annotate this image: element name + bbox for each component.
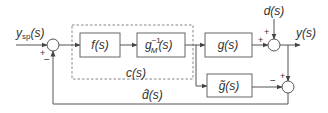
summing-junction-1 bbox=[47, 39, 59, 51]
feedback-line bbox=[53, 51, 288, 104]
summing-junction-2 bbox=[268, 39, 280, 51]
output-label: y(s) bbox=[295, 26, 316, 40]
sum2-left-plus-sign: + bbox=[258, 35, 263, 45]
setpoint-label: ysp(s) bbox=[15, 26, 44, 41]
model-label: g̃(s) bbox=[219, 79, 240, 93]
estimated-disturbance-label: d̂(s) bbox=[142, 88, 163, 102]
disturbance-label: d(s) bbox=[264, 4, 285, 18]
plant-label: g(s) bbox=[218, 38, 239, 52]
filter-label: f(s) bbox=[91, 38, 108, 52]
controller-group-label: c(s) bbox=[126, 66, 146, 80]
sum3-minus-sign: − bbox=[270, 75, 276, 86]
sum2-top-plus-sign: + bbox=[264, 27, 269, 37]
imc-block-diagram: c(s) ysp(s) + − f(s) g−1M(s) g(s) + d(s)… bbox=[0, 0, 328, 113]
sum3-top-plus-sign: + bbox=[280, 71, 285, 81]
sum1-minus-sign: − bbox=[44, 54, 50, 65]
summing-junction-3 bbox=[282, 81, 294, 93]
